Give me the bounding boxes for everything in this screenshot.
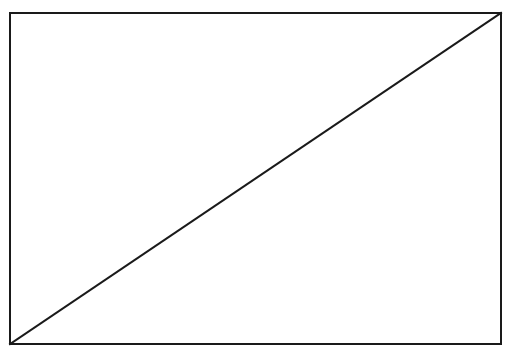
rectangle-diagonal-figure (0, 0, 507, 353)
figure-canvas (0, 0, 507, 353)
